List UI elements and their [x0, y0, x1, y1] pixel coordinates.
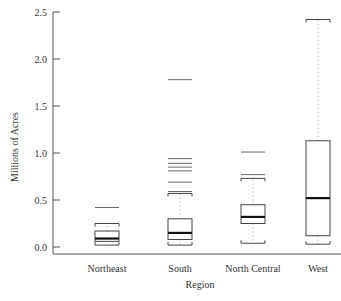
- iqr-box: [95, 231, 119, 241]
- iqr-box: [168, 219, 192, 240]
- y-axis-title: Millions of Acres: [9, 112, 20, 182]
- box-plot-chart: 0.00.51.01.52.02.5 NortheastSouthNorth C…: [0, 0, 341, 301]
- lower-cap: [95, 242, 119, 245]
- y-axis: 0.00.51.01.52.02.5: [35, 7, 61, 255]
- y-tick-label: 2.0: [35, 54, 48, 65]
- box-south: [168, 80, 192, 245]
- y-tick-label: 0.0: [35, 242, 48, 253]
- lower-cap: [241, 240, 265, 243]
- boxes: [95, 20, 330, 246]
- iqr-box: [241, 205, 265, 224]
- upper-cap: [168, 193, 192, 196]
- x-tick-label: South: [168, 263, 191, 274]
- box-west: [306, 20, 330, 245]
- y-tick-label: 2.5: [35, 7, 48, 18]
- box-north-central: [241, 152, 265, 243]
- x-tick-label: West: [308, 263, 328, 274]
- lower-cap: [306, 241, 330, 244]
- y-tick-label: 1.5: [35, 101, 48, 112]
- y-tick-label: 1.0: [35, 148, 48, 159]
- upper-cap: [306, 20, 330, 23]
- box-northeast: [95, 208, 119, 246]
- x-tick-label: Northeast: [88, 263, 127, 274]
- x-tick-label: North Central: [225, 263, 280, 274]
- x-axis-title: Region: [186, 279, 215, 290]
- iqr-box: [306, 141, 330, 236]
- y-tick-label: 0.5: [35, 195, 48, 206]
- x-axis: NortheastSouthNorth CentralWest: [53, 254, 341, 274]
